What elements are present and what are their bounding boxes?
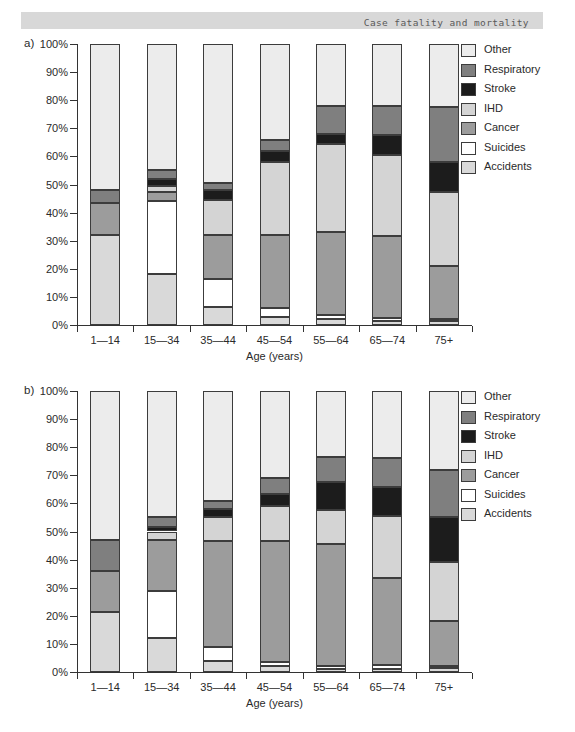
bar-segment-accidents-a <box>260 317 290 325</box>
bar-segment-suicides-a <box>260 308 290 316</box>
bar-segment-respiratory-a <box>90 190 120 203</box>
x-category-label: 45—54 <box>247 334 303 346</box>
y-tick <box>70 391 77 392</box>
bar-segment-stroke-b <box>372 487 402 517</box>
bar-segment-ihd-a <box>260 162 290 235</box>
legend-label-cancer: Cancer <box>484 121 519 133</box>
legend-swatch-ihd <box>461 450 476 463</box>
x-tick <box>359 326 360 332</box>
x-category-label: 1—14 <box>77 681 133 693</box>
y-axis-line <box>77 44 78 326</box>
bar-segment-cancer-a <box>316 232 346 315</box>
bar-segment-suicides-b <box>260 662 290 666</box>
bar-segment-stroke-b <box>260 494 290 507</box>
legend-swatch-ihd <box>461 103 476 116</box>
legend-label-stroke: Stroke <box>484 82 516 94</box>
bar-segment-accidents-b <box>260 666 290 672</box>
bar-segment-accidents-b <box>203 661 233 672</box>
legend-swatch-stroke <box>461 430 476 443</box>
legend-swatch-suicides <box>461 142 476 155</box>
x-tick <box>246 326 247 332</box>
bar-segment-ihd-b <box>260 506 290 541</box>
bar-segment-cancer-a <box>372 236 402 317</box>
y-tick-label: 100% <box>30 385 68 397</box>
y-axis-line <box>77 391 78 673</box>
y-tick <box>70 241 77 242</box>
bar-segment-accidents-a <box>429 321 459 325</box>
y-tick <box>70 325 77 326</box>
bar-segment-respiratory-a <box>260 140 290 151</box>
bar-segment-accidents-b <box>147 638 177 672</box>
y-tick <box>70 100 77 101</box>
bar-segment-accidents-a <box>372 321 402 325</box>
bar-segment-other-b <box>203 391 233 501</box>
x-category-label: 45—54 <box>247 681 303 693</box>
bar-segment-suicides-a <box>203 279 233 307</box>
bar-segment-respiratory-b <box>429 470 459 518</box>
x-axis-line <box>77 325 472 326</box>
bar-segment-suicides-a <box>316 315 346 319</box>
bar-segment-cancer-b <box>429 621 459 666</box>
y-tick <box>70 128 77 129</box>
y-tick-label: 10% <box>30 291 68 303</box>
y-tick-label: 60% <box>30 150 68 162</box>
bar-segment-ihd-b <box>429 562 459 621</box>
y-tick-label: 80% <box>30 94 68 106</box>
bar-segment-cancer-a <box>90 203 120 235</box>
bar-segment-stroke-a <box>429 162 459 192</box>
x-category-label: 55—64 <box>303 681 359 693</box>
legend-label-cancer: Cancer <box>484 468 519 480</box>
x-category-label: 35—44 <box>190 334 246 346</box>
bar-segment-ihd-a <box>147 186 177 192</box>
bar-segment-cancer-b <box>372 578 402 665</box>
y-tick-label: 20% <box>30 263 68 275</box>
x-axis-title-b: Age (years) <box>77 697 472 709</box>
bar-segment-respiratory-b <box>147 517 177 527</box>
x-category-label: 15—34 <box>134 334 190 346</box>
bar-segment-ihd-a <box>203 200 233 235</box>
legend-swatch-other <box>461 391 476 404</box>
legend-swatch-stroke <box>461 83 476 96</box>
bar-segment-stroke-a <box>372 135 402 155</box>
bar-segment-other-b <box>260 391 290 478</box>
bar-segment-ihd-b <box>316 510 346 544</box>
y-tick-label: 60% <box>30 497 68 509</box>
legend-label-accidents: Accidents <box>484 507 532 519</box>
x-tick <box>472 326 473 332</box>
section-header-title: Case fatality and mortality <box>364 17 543 28</box>
x-category-label: 1—14 <box>77 334 133 346</box>
legend-label-suicides: Suicides <box>484 141 526 153</box>
bar-segment-ihd-b <box>203 517 233 541</box>
y-tick-label: 30% <box>30 582 68 594</box>
bar-segment-respiratory-a <box>429 107 459 162</box>
bar-segment-suicides-b <box>429 666 459 668</box>
bar-segment-stroke-a <box>147 179 177 186</box>
y-tick-label: 0% <box>30 319 68 331</box>
bar-segment-ihd-b <box>372 516 402 578</box>
y-tick <box>70 475 77 476</box>
x-category-label: 75+ <box>416 334 472 346</box>
bar-segment-ihd-b <box>147 532 177 540</box>
x-tick <box>472 673 473 679</box>
bar-segment-respiratory-b <box>90 540 120 571</box>
y-tick <box>70 672 77 673</box>
bar-segment-respiratory-b <box>203 501 233 509</box>
y-tick <box>70 44 77 45</box>
y-tick <box>70 213 77 214</box>
bar-segment-cancer-b <box>90 571 120 612</box>
bar-segment-cancer-b <box>316 544 346 666</box>
figure-page: Case fatality and mortality a)0%10%20%30… <box>0 0 575 732</box>
x-tick <box>303 326 304 332</box>
legend-label-other: Other <box>484 43 512 55</box>
bar-segment-stroke-a <box>203 190 233 200</box>
legend-swatch-cancer <box>461 469 476 482</box>
bar-segment-ihd-a <box>372 155 402 236</box>
legend-label-ihd: IHD <box>484 449 503 461</box>
y-tick <box>70 185 77 186</box>
bar-segment-suicides-b <box>316 666 346 669</box>
bar-segment-cancer-a <box>260 235 290 308</box>
bar-segment-cancer-a <box>203 235 233 279</box>
x-tick <box>416 673 417 679</box>
bar-segment-accidents-a <box>90 235 120 325</box>
legend-swatch-other <box>461 44 476 57</box>
